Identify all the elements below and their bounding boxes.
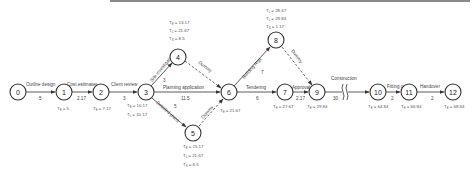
node-12-times: TE= 68.84: [444, 104, 465, 110]
svg-text:4: 4: [176, 54, 180, 61]
activity-label: Outline design: [26, 82, 56, 87]
svg-text:11: 11: [405, 89, 412, 96]
svg-text:TE= 15.17: TE= 15.17: [183, 144, 204, 150]
svg-text:2: 2: [99, 89, 103, 96]
node-7: 7: [277, 84, 293, 100]
svg-text:TE= 13.17: TE= 13.17: [169, 20, 190, 26]
svg-text:TL= 21.67: TL= 21.67: [183, 153, 204, 159]
activity-label: Handover: [420, 84, 440, 89]
node-3-times: TE= 10.17 TL= 10.17: [127, 103, 148, 118]
svg-text:TS= 1.17: TS= 1.17: [266, 24, 285, 30]
node-9: 9: [309, 84, 325, 100]
node-2-times: TE= 7.17: [93, 106, 112, 112]
duration-label: 30: [333, 96, 339, 101]
activity-label: Building regs: [241, 56, 263, 80]
duration-label: 3: [163, 78, 166, 83]
network-diagram: Outline design 5 Cost estimates 2.17 Cli…: [0, 0, 474, 181]
svg-text:TE= 7.17: TE= 7.17: [93, 106, 112, 112]
node-4-times: TE= 13.17 TL= 21.67 TS= 8.5: [169, 20, 190, 42]
node-8: 8: [268, 32, 284, 48]
node-10-times: TE= 64.84: [368, 104, 389, 110]
svg-text:TL= 28.67: TL= 28.67: [266, 8, 287, 14]
svg-text:6: 6: [227, 89, 231, 96]
node-6: 6: [221, 84, 237, 100]
duration-label: 2: [391, 96, 394, 101]
svg-text:TE= 64.84: TE= 64.84: [368, 104, 389, 110]
activity-label: Dummy: [290, 49, 304, 65]
duration-label: 2.17: [296, 96, 305, 101]
node-12: 12: [445, 84, 461, 100]
svg-text:TS= 8.5: TS= 8.5: [169, 36, 185, 42]
duration-label: 3: [123, 96, 126, 101]
activity-label: Client review: [111, 82, 138, 87]
node-11: 11: [401, 84, 417, 100]
node-9-times: TE= 29.84: [307, 104, 328, 110]
break-mark-right: [346, 84, 348, 100]
node-2: 2: [93, 84, 109, 100]
activity-label: Tendering: [246, 85, 267, 90]
node-10: 10: [370, 84, 386, 100]
node-11-times: TE= 66.84: [401, 104, 422, 110]
activity-label: Construction: [331, 76, 357, 81]
svg-text:1: 1: [62, 89, 66, 96]
activity-label: Dummy: [200, 104, 215, 120]
duration-label: 11.5: [181, 96, 190, 101]
svg-text:9: 9: [315, 89, 319, 96]
svg-text:8: 8: [274, 37, 278, 44]
svg-text:TS= 6.5: TS= 6.5: [183, 162, 199, 168]
svg-text:7: 7: [283, 89, 287, 96]
duration-label: 6: [256, 96, 259, 101]
svg-text:TE= 66.84: TE= 66.84: [401, 104, 422, 110]
svg-text:TE= 29.84: TE= 29.84: [307, 104, 328, 110]
svg-text:TL= 21.67: TL= 21.67: [169, 28, 190, 34]
node-6-times: TE= 21.67: [220, 108, 241, 114]
activity-label: Detailed plans: [155, 100, 181, 124]
duration-label: 2: [431, 96, 434, 101]
svg-text:TL= 10.17: TL= 10.17: [127, 112, 148, 118]
node-4: 4: [170, 49, 186, 65]
duration-label: 7: [261, 70, 264, 75]
duration-label: 2.17: [77, 96, 86, 101]
activity-label: Approval: [292, 85, 310, 90]
node-1: 1: [56, 84, 72, 100]
break-mark-left: [342, 84, 344, 100]
svg-text:5: 5: [191, 130, 195, 137]
node-5-times: TE= 15.17 TL= 21.67 TS= 6.5: [183, 144, 204, 168]
svg-text:TE= 68.84: TE= 68.84: [444, 104, 465, 110]
activity-label: Planning application: [163, 85, 205, 90]
svg-text:12: 12: [449, 89, 457, 96]
node-1-times: TE= 5: [57, 106, 69, 112]
duration-label: 5: [174, 104, 177, 109]
node-5: 5: [185, 125, 201, 141]
node-0: 0: [10, 84, 26, 100]
node-8-times: TL= 28.67 TL= 29.84 TS= 1.17: [266, 8, 287, 30]
svg-text:10: 10: [374, 89, 382, 96]
node-3: 3: [138, 84, 154, 100]
svg-text:TE= 27.67: TE= 27.67: [273, 104, 294, 110]
svg-text:0: 0: [16, 89, 20, 96]
node-7-times: TE= 27.67: [273, 104, 294, 110]
svg-text:TE= 21.67: TE= 21.67: [220, 108, 241, 114]
activity-label: Cost estimates: [67, 82, 98, 87]
svg-text:TE= 5: TE= 5: [57, 106, 69, 112]
svg-text:3: 3: [144, 89, 148, 96]
svg-text:TE= 10.17: TE= 10.17: [127, 103, 148, 109]
duration-label: 5: [39, 96, 42, 101]
svg-text:TL= 29.84: TL= 29.84: [266, 16, 287, 22]
